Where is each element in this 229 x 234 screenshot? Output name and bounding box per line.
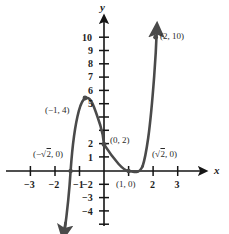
y-tick-7: 7 [88, 72, 93, 82]
label-local-max: (−1, 4) [45, 106, 70, 115]
graph-figure: y x −3 −2 −1 2 3 10 9 8 7 6 5 2 1 −2 −3 … [0, 0, 229, 234]
y-tick-9: 9 [88, 46, 93, 56]
marker-touch-point [126, 169, 130, 173]
marker-y-intercept [102, 142, 107, 147]
x-tick-3: 3 [175, 180, 180, 190]
x-tick-neg2: −2 [49, 180, 60, 190]
x-tick-neg3: −3 [24, 180, 35, 190]
marker-neg-root [68, 169, 72, 173]
x-tick-2: 2 [150, 180, 155, 190]
label-pos-root: (√2, 0) [152, 150, 177, 159]
curve-middle-branch [104, 144, 143, 172]
marker-local-max [83, 96, 88, 101]
y-axis-label: y [100, 2, 105, 13]
label-touch-point: (1, 0) [116, 180, 136, 189]
y-tick-neg2: −2 [82, 180, 93, 190]
curve-left-arrow [64, 222, 66, 232]
y-tick-neg4: −4 [82, 207, 93, 217]
x-axis-label: x [214, 165, 220, 176]
y-tick-8: 8 [88, 59, 93, 69]
y-tick-1: 1 [88, 153, 93, 163]
y-tick-2: 2 [88, 139, 93, 149]
label-pos-root-close: , 0) [165, 149, 177, 159]
label-neg-root-open: (−√ [33, 149, 46, 159]
label-neg-root: (−√2, 0) [33, 150, 63, 159]
label-y-intercept: (0, 2) [110, 136, 130, 145]
curve-right-branch [143, 30, 157, 166]
y-tick-6: 6 [88, 86, 93, 96]
y-tick-neg3: −3 [82, 193, 93, 203]
label-high-point: (2, 10) [160, 32, 184, 41]
label-pos-root-open: (√ [152, 149, 160, 159]
y-tick-10: 10 [82, 33, 92, 43]
y-tick-5: 5 [88, 99, 93, 109]
label-neg-root-close: , 0) [51, 149, 63, 159]
coordinate-plane [0, 0, 229, 234]
marker-high-point [153, 35, 158, 40]
